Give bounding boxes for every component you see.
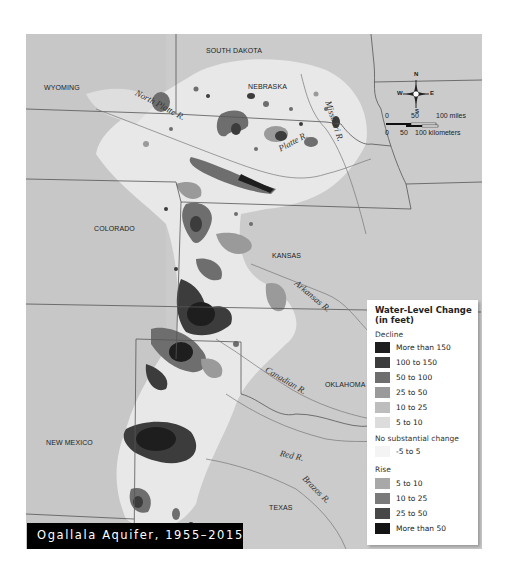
legend-row-label: More than 50 <box>396 523 446 534</box>
scale-km-100: 100 kilometers <box>415 129 461 136</box>
legend-row-label: 5 to 10 <box>396 417 423 428</box>
legend-row-label: More than 150 <box>396 342 451 353</box>
legend-row-label: 5 to 10 <box>396 478 423 489</box>
compass-w: W <box>397 90 403 96</box>
label-kansas: KANSAS <box>272 252 301 259</box>
legend-swatch <box>375 446 390 457</box>
label-colorado: COLORADO <box>94 225 135 232</box>
legend-rise-heading: Rise <box>375 465 391 474</box>
compass-n: N <box>414 71 418 77</box>
legend-row-label: 10 to 25 <box>396 402 427 413</box>
legend-swatch <box>375 478 390 489</box>
legend-swatch <box>375 342 390 353</box>
scale-miles-50: 50 <box>411 112 419 119</box>
legend-row-label: 50 to 100 <box>396 372 432 383</box>
legend-swatch <box>375 508 390 519</box>
scale-km-50: 50 <box>400 129 408 136</box>
legend-row-label: -5 to 5 <box>396 446 421 457</box>
scale-miles-100: 100 miles <box>436 112 466 119</box>
legend-row-label: 10 to 25 <box>396 493 427 504</box>
scale-bar: 0 50 100 miles 0 50 100 kilometers <box>382 112 478 140</box>
legend: Water-Level Change (in feet) Decline Mor… <box>367 300 478 545</box>
compass-rose: N S W E <box>396 72 436 116</box>
map-title-bar: Ogallala Aquifer, 1955–2015 <box>27 523 243 549</box>
legend-row-label: 25 to 50 <box>396 387 427 398</box>
map-canvas[interactable]: SOUTH DAKOTA WYOMING NEBRASKA COLORADO K… <box>26 34 482 549</box>
legend-swatch <box>375 402 390 413</box>
legend-row-label: 25 to 50 <box>396 508 427 519</box>
scale-bar-graphic <box>382 122 478 128</box>
label-south-dakota: SOUTH DAKOTA <box>206 47 262 54</box>
legend-decline-heading: Decline <box>375 330 403 339</box>
legend-title: Water-Level Change (in feet) <box>375 305 475 325</box>
legend-swatch <box>375 387 390 398</box>
scale-miles-0: 0 <box>385 112 389 119</box>
scale-km-0: 0 <box>385 129 389 136</box>
legend-swatch <box>375 493 390 504</box>
legend-row-label: 100 to 150 <box>396 357 437 368</box>
map-title: Ogallala Aquifer, 1955–2015 <box>37 528 244 542</box>
legend-swatch <box>375 417 390 428</box>
legend-swatch <box>375 372 390 383</box>
label-texas: TEXAS <box>269 504 292 511</box>
label-oklahoma: OKLAHOMA <box>325 381 365 388</box>
label-nebraska: NEBRASKA <box>248 83 287 90</box>
legend-swatch <box>375 357 390 368</box>
legend-swatch <box>375 523 390 534</box>
label-wyoming: WYOMING <box>44 84 80 91</box>
label-new-mexico: NEW MEXICO <box>46 439 93 446</box>
compass-e: E <box>430 90 434 96</box>
legend-nochange-heading: No substantial change <box>375 434 459 443</box>
